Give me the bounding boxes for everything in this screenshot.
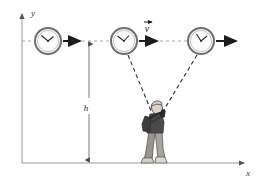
clock-right xyxy=(188,28,214,54)
y-axis-label: y xyxy=(30,8,35,18)
light-ray-from-middle-clock xyxy=(128,55,152,113)
light-ray-from-right-clock xyxy=(162,55,197,113)
observer-back-leg xyxy=(144,131,155,160)
x-axis-label: x xyxy=(245,168,250,178)
height-dimension-line: h xyxy=(80,44,97,160)
observer-front-shoe xyxy=(155,157,167,163)
velocity-label: v xyxy=(145,23,150,34)
figure-canvas: h v xyxy=(0,0,264,180)
physics-figure: h v xyxy=(0,0,264,180)
velocity-vector-label: v xyxy=(144,22,152,34)
observer-figure xyxy=(141,101,168,164)
clock-middle xyxy=(111,28,137,54)
clock-left xyxy=(35,28,61,54)
observer-back-shoe xyxy=(141,158,154,163)
light-rays-group xyxy=(128,55,197,113)
height-label: h xyxy=(84,103,89,113)
observer-front-leg xyxy=(155,131,165,159)
